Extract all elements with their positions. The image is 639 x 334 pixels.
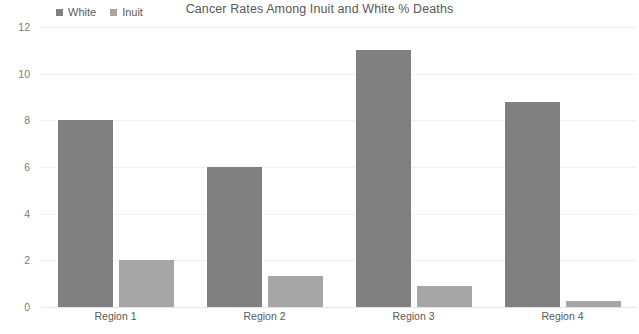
bar-white-4[interactable]	[505, 102, 560, 307]
bar-white-1[interactable]	[58, 120, 113, 307]
legend-label: White	[68, 7, 96, 18]
bar-inuit-4[interactable]	[566, 301, 621, 307]
y-tick-label: 6	[24, 161, 30, 173]
x-tick-label: Region 3	[392, 310, 434, 322]
x-tick-label: Region 2	[243, 310, 285, 322]
legend-label: Inuit	[122, 7, 143, 18]
legend-entry-inuit[interactable]: Inuit	[110, 7, 143, 18]
y-tick-label: 4	[24, 208, 30, 220]
bars-layer	[41, 27, 637, 307]
y-axis: 024681012	[0, 27, 38, 307]
gridline	[41, 307, 637, 308]
x-tick-label: Region 1	[94, 310, 136, 322]
x-tick-label: Region 4	[541, 310, 583, 322]
y-tick-label: 2	[24, 254, 30, 266]
legend-entry-white[interactable]: White	[56, 7, 96, 18]
x-axis: Region 1Region 2Region 3Region 4	[41, 310, 637, 330]
bar-white-2[interactable]	[207, 167, 262, 307]
chart-legend: WhiteInuit	[0, 4, 639, 20]
y-tick-label: 10	[18, 68, 30, 80]
bar-inuit-1[interactable]	[119, 260, 174, 307]
y-tick-label: 0	[24, 301, 30, 313]
bar-inuit-3[interactable]	[417, 286, 472, 307]
legend-swatch-icon	[110, 9, 117, 16]
y-tick-label: 12	[18, 21, 30, 33]
bar-inuit-2[interactable]	[268, 276, 323, 308]
y-tick-label: 8	[24, 114, 30, 126]
bar-white-3[interactable]	[356, 50, 411, 307]
bar-chart: Cancer Rates Among Inuit and White % Dea…	[0, 0, 639, 334]
legend-swatch-icon	[56, 9, 63, 16]
